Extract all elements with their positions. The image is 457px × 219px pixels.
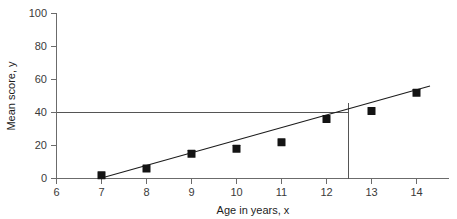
x-tick-label-8: 8 — [143, 186, 149, 198]
data-point-12 — [323, 115, 331, 123]
x-tick-label-11: 11 — [276, 186, 287, 198]
data-point-14 — [413, 89, 421, 97]
x-tick-label-13: 13 — [365, 186, 377, 198]
chart-background — [0, 0, 457, 219]
data-point-10 — [233, 145, 241, 153]
x-tick-label-14: 14 — [410, 186, 422, 198]
x-tick-label-9: 9 — [188, 186, 194, 198]
y-tick-label-40: 40 — [35, 106, 47, 118]
y-tick-label-20: 20 — [35, 139, 47, 151]
x-tick-label-7: 7 — [98, 186, 104, 198]
y-tick-label-0: 0 — [41, 172, 47, 184]
y-tick-label-100: 100 — [29, 7, 47, 19]
data-point-8 — [143, 165, 151, 173]
y-tick-label-60: 60 — [35, 73, 47, 85]
x-tick-label-6: 6 — [53, 186, 59, 198]
y-axis-title: Mean score, y — [5, 61, 17, 131]
data-point-7 — [98, 171, 106, 179]
chart-canvas: 0 20 40 60 80 100 6 7 8 9 10 11 1 — [0, 0, 457, 219]
data-point-13 — [368, 107, 376, 115]
x-axis-title: Age in years, x — [217, 204, 290, 216]
y-tick-label-80: 80 — [35, 40, 47, 52]
data-point-11 — [278, 138, 286, 146]
x-tick-label-12: 12 — [320, 186, 332, 198]
scatter-chart: 0 20 40 60 80 100 6 7 8 9 10 11 1 — [0, 0, 457, 219]
x-tick-label-10: 10 — [230, 186, 242, 198]
data-point-9 — [188, 150, 196, 158]
